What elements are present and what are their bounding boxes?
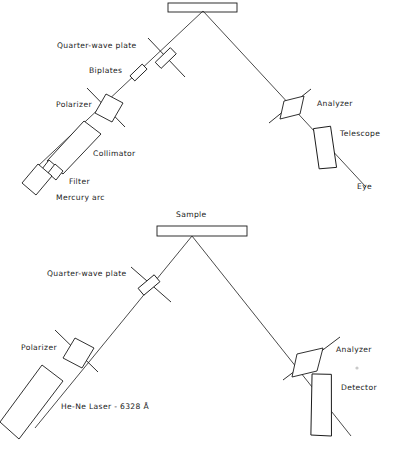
upper-qwp-slab [155, 48, 176, 69]
label-lower-detector: Detector [341, 383, 377, 392]
label-upper-detector-eye: Eye [357, 182, 372, 191]
lower-analyzer [283, 337, 340, 380]
label-lower-quarter-wave-plate: Quarter-wave plate [47, 269, 127, 278]
upper-biplates-slab [130, 64, 147, 81]
upper-polarizer-diamond [95, 94, 123, 122]
label-upper-collimator: Collimator [93, 149, 136, 158]
label-upper-biplates: Biplates [89, 66, 122, 75]
lower-detector [291, 368, 351, 443]
label-upper-analyzer: Analyzer [317, 99, 353, 108]
upper-sample-bar [168, 3, 237, 12]
lower-source-laser [0, 365, 63, 439]
upper-analyzer [269, 89, 311, 123]
label-upper-quarter-wave-plate: Quarter-wave plate [57, 41, 137, 50]
upper-biplates [130, 64, 147, 81]
upper-polarizer [87, 88, 125, 127]
label-lower-source: He-Ne Laser - 6328 Å [61, 401, 149, 411]
lower-laser-tube [0, 365, 63, 439]
scan-speck [355, 366, 358, 369]
label-lower-polarizer: Polarizer [21, 343, 57, 352]
label-upper-telescope: Telescope [339, 129, 380, 138]
lower-sample-bar [157, 226, 247, 236]
label-upper-polarizer: Polarizer [56, 100, 92, 109]
label-lower-analyzer: Analyzer [336, 345, 372, 354]
upper-telescope [307, 123, 343, 172]
optical-schematic-svg: Quarter-wave plate Biplates Polarizer Co… [0, 0, 411, 451]
lower-polarizer [55, 330, 98, 372]
upper-incident-beam [38, 11, 203, 166]
lower-incident-beam [35, 236, 192, 428]
label-upper-source: Mercury arc [56, 193, 105, 202]
lower-quarter-wave-plate [131, 267, 171, 302]
label-upper-filter: Filter [69, 177, 90, 186]
upper-telescope-tube [307, 123, 343, 172]
lower-qwp-slab [138, 275, 160, 295]
upper-setup-group: Quarter-wave plate Biplates Polarizer Co… [22, 3, 380, 202]
optical-diagram-root: Quarter-wave plate Biplates Polarizer Co… [0, 0, 411, 451]
lower-detector-box [291, 368, 351, 443]
lower-setup-group: Sample Quarter-wave plate Polarizer He-N… [0, 210, 377, 443]
label-lower-sample: Sample [176, 210, 207, 219]
lower-analyzer-diamond [292, 348, 323, 377]
